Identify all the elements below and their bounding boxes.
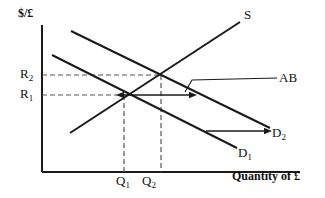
ab-leader-line (185, 78, 277, 92)
y-tick-r2-sub: 2 (29, 73, 34, 83)
demand-curve-2-label: D2 (272, 126, 286, 139)
y-tick-r1-text: R (20, 86, 29, 101)
x-tick-q1-sub: 1 (125, 180, 130, 190)
x-tick-label-q1: Q1 (116, 174, 130, 187)
ab-annotation-label: AB (279, 71, 297, 84)
x-axis-label: Quantity of £ (232, 170, 300, 182)
demand-curve-1-label: D1 (238, 146, 252, 159)
x-tick-q2-sub: 2 (151, 180, 156, 190)
demand-curve-1 (52, 55, 237, 148)
x-tick-q2-text: Q (142, 173, 151, 188)
x-tick-label-q2: Q2 (142, 174, 156, 187)
x-tick-q1-text: Q (116, 173, 125, 188)
guide-lines (42, 75, 161, 172)
annotation-arrows (124, 78, 277, 131)
y-axis-label: $/£ (18, 7, 33, 19)
demand-2-text: D (272, 125, 281, 140)
diagram-canvas: $/£ Quantity of £ R2 R1 Q1 Q2 S AB D2 D1 (0, 0, 325, 198)
axis-lines (42, 25, 300, 172)
y-tick-r2-text: R (20, 66, 29, 81)
y-tick-label-r2: R2 (20, 67, 33, 80)
supply-curve-label: S (244, 8, 251, 21)
demand-2-sub: 2 (281, 132, 286, 142)
y-tick-r1-sub: 1 (29, 93, 34, 103)
demand-1-text: D (238, 145, 247, 160)
demand-1-sub: 1 (247, 152, 252, 162)
y-tick-label-r1: R1 (20, 87, 33, 100)
